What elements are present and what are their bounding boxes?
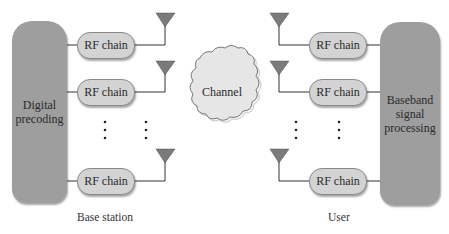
- channel-cloud: [190, 46, 261, 123]
- connector-line: [279, 70, 309, 92]
- rf-chain-label: RF chain: [84, 174, 128, 189]
- connector-line: [134, 22, 165, 45]
- antenna-icon: [156, 13, 175, 27]
- user-label: User: [328, 211, 350, 223]
- tx-rf-chain-3: RF chain: [77, 168, 135, 195]
- rf-chain-label: RF chain: [84, 85, 128, 100]
- rf-chain-label: RF chain: [316, 85, 360, 100]
- rf-chain-label: RF chain: [316, 38, 360, 53]
- base-station-label: Base station: [77, 211, 133, 223]
- antenna-icon: [156, 149, 175, 163]
- channel-label: Channel: [202, 85, 242, 100]
- antenna-icon: [156, 61, 175, 75]
- rf-chain-label: RF chain: [316, 174, 360, 189]
- rx-rf-chain-2: RF chain: [309, 79, 367, 106]
- rx-rf-chain-1: RF chain: [309, 32, 367, 59]
- connector-line: [279, 22, 309, 45]
- tx-rf-chain-1: RF chain: [77, 32, 135, 59]
- connector-line: [134, 158, 165, 181]
- antenna-icon: [270, 13, 289, 27]
- digital-precoding-block: Digital precoding: [12, 21, 67, 203]
- connector-line: [279, 158, 309, 181]
- baseband-processing-block: Baseband signal processing: [380, 22, 440, 205]
- digital-precoding-label: Digital precoding: [16, 98, 64, 126]
- connector-line: [134, 70, 165, 92]
- rx-rf-chain-3: RF chain: [309, 168, 367, 195]
- baseband-processing-label: Baseband signal processing: [382, 93, 438, 135]
- rf-chain-label: RF chain: [84, 38, 128, 53]
- antenna-icon: [270, 149, 289, 163]
- antenna-icon: [270, 61, 289, 75]
- tx-rf-chain-2: RF chain: [77, 79, 135, 106]
